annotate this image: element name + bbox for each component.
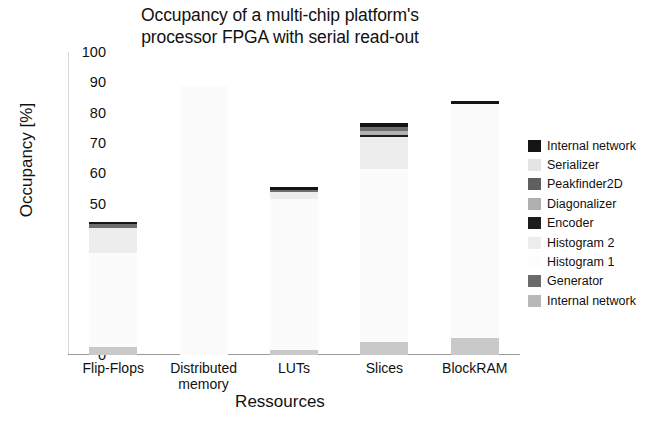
bar-segment: [270, 350, 318, 355]
legend-item[interactable]: Encoder: [528, 214, 646, 233]
legend-swatch-icon: [528, 275, 541, 287]
y-tick-label: 50: [60, 196, 106, 212]
bar-2: [270, 187, 318, 355]
legend-label: Internal network: [547, 139, 636, 153]
legend-item[interactable]: Generator: [528, 272, 646, 291]
legend-label: Histogram 2: [547, 236, 614, 250]
chart-title: Occupancy of a multi-chip platform's pro…: [95, 4, 465, 48]
legend-item[interactable]: Diagonalizer: [528, 194, 646, 213]
y-tick-label: 60: [60, 165, 106, 181]
bar-segment: [270, 192, 318, 199]
legend-item[interactable]: Internal network: [528, 291, 646, 310]
legend-swatch-icon: [528, 237, 541, 249]
legend-swatch-icon: [528, 159, 541, 171]
x-axis-title: Ressources: [90, 392, 470, 412]
legend-label: Histogram 1: [547, 255, 614, 269]
bar-1: [180, 86, 228, 355]
legend-swatch-icon: [528, 178, 541, 190]
bar-segment: [360, 137, 408, 169]
legend-swatch-icon: [528, 256, 541, 268]
bar-segment: [451, 104, 499, 338]
legend-swatch-icon: [528, 295, 541, 307]
bar-segment: [89, 347, 137, 355]
bar-3: [360, 123, 408, 355]
legend-label: Generator: [547, 274, 603, 288]
y-tick-label: 100: [60, 44, 106, 60]
bar-segment: [180, 86, 228, 355]
legend: Internal networkSerializerPeakfinder2DDi…: [528, 136, 646, 311]
bar-segment: [451, 338, 499, 355]
legend-label: Encoder: [547, 216, 594, 230]
legend-item[interactable]: Serializer: [528, 155, 646, 174]
y-tick-label: 70: [60, 135, 106, 151]
bar-segment: [360, 342, 408, 355]
legend-item[interactable]: Histogram 1: [528, 252, 646, 271]
y-tick-label: 90: [60, 74, 106, 90]
plot-area: 0102030405060708090100 Flip-FlopsDistrib…: [68, 52, 520, 355]
legend-item[interactable]: Internal network: [528, 136, 646, 155]
legend-label: Diagonalizer: [547, 197, 616, 211]
y-tick-label: 80: [60, 105, 106, 121]
legend-item[interactable]: Histogram 2: [528, 233, 646, 252]
legend-swatch-icon: [528, 217, 541, 229]
bar-segment: [89, 228, 137, 253]
bar-segment: [89, 253, 137, 347]
bar-0: [89, 222, 137, 355]
legend-item[interactable]: Peakfinder2D: [528, 175, 646, 194]
bar-segment: [270, 199, 318, 351]
legend-label: Internal network: [547, 294, 636, 308]
bar-segment: [360, 169, 408, 342]
y-axis-title: Occupancy [%]: [17, 85, 37, 235]
legend-swatch-icon: [528, 198, 541, 210]
legend-swatch-icon: [528, 140, 541, 152]
chart-root: Occupancy of a multi-chip platform's pro…: [0, 0, 649, 422]
bar-4: [451, 101, 499, 355]
x-tick-label: BlockRAM: [420, 360, 530, 376]
legend-label: Serializer: [547, 158, 599, 172]
legend-label: Peakfinder2D: [547, 177, 623, 191]
